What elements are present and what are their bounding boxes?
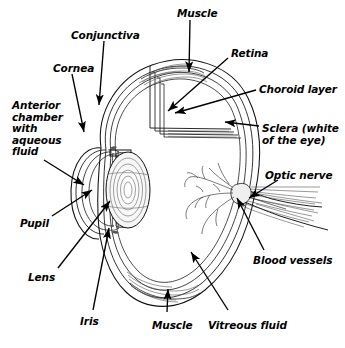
leader-conjunctiva (99, 41, 104, 105)
label-vitreous-fluid: Vitreous fluid (208, 320, 287, 332)
leader-pupil (52, 190, 92, 216)
label-muscle-bottom: Muscle (152, 320, 193, 332)
label-iris: Iris (80, 316, 99, 328)
label-choroid-layer: Choroid layer (259, 84, 337, 96)
optic-nerve-fibers (242, 187, 322, 227)
label-muscle-top: Muscle (177, 8, 218, 20)
label-pupil: Pupil (20, 218, 49, 230)
leader-muscle-bottom (167, 289, 168, 312)
leader-sclera (225, 122, 259, 126)
optic-disc (231, 183, 251, 204)
label-blood-vessels: Blood vessels (253, 255, 332, 267)
leader-cornea (72, 74, 84, 132)
leader-muscle-top (189, 20, 190, 72)
label-optic-nerve: Optic nerve (265, 170, 333, 182)
leader-blood-vessels (237, 198, 264, 250)
label-conjunctiva: Conjunctiva (71, 30, 140, 42)
lens (106, 152, 150, 228)
leader-anterior-chamber (44, 160, 84, 185)
label-sclera: Sclera (white of the eye) (262, 123, 339, 146)
label-anterior-chamber: Anterior chamber with aqueous fluid (12, 100, 63, 158)
label-lens: Lens (28, 272, 55, 284)
eye-anatomy-diagram: Muscle Conjunctiva Retina Cornea Choroid… (0, 0, 345, 348)
leader-lens (58, 201, 110, 268)
label-cornea: Cornea (53, 63, 94, 75)
label-retina: Retina (231, 48, 268, 60)
